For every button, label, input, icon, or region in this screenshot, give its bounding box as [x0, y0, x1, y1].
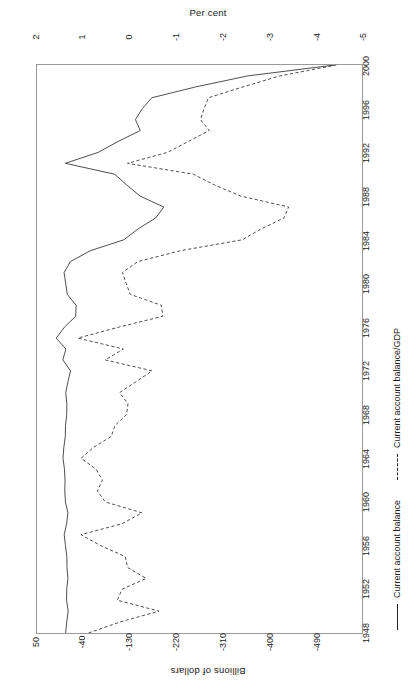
dashed-line-icon	[397, 454, 398, 480]
year-tick-1964: 1964	[361, 449, 371, 469]
top-tick-7: -5	[358, 33, 368, 41]
top-tick-1: 1	[77, 34, 87, 39]
legend-label: Current account balance	[392, 500, 402, 598]
top-tick-0: 2	[31, 34, 41, 39]
top-axis-ticks: 210-1-2-3-4-5	[0, 32, 416, 54]
year-tick-1980: 1980	[361, 274, 371, 294]
legend: Current account balanceCurrent account b…	[392, 300, 414, 630]
top-tick-5: -3	[265, 33, 275, 41]
year-tick-1988: 1988	[361, 187, 371, 207]
legend-item-0: Current account balance	[392, 500, 402, 630]
bottom-tick-4: -310	[218, 633, 228, 651]
bottom-tick-1: -40	[77, 635, 87, 648]
top-tick-3: -1	[171, 33, 181, 41]
series-current-account-balance	[56, 65, 335, 633]
year-tick-2000: 2000	[361, 56, 371, 76]
bottom-tick-6: -490	[312, 633, 322, 651]
top-tick-2: 0	[124, 34, 134, 39]
year-tick-1960: 1960	[361, 492, 371, 512]
year-tick-1992: 1992	[361, 143, 371, 163]
legend-item-1: Current account balance/GDP	[392, 328, 402, 480]
bottom-tick-5: -400	[265, 633, 275, 651]
year-tick-1952: 1952	[361, 579, 371, 599]
year-tick-1956: 1956	[361, 536, 371, 556]
solid-line-icon	[397, 604, 398, 630]
top-tick-4: -2	[218, 33, 228, 41]
legend-label: Current account balance/GDP	[392, 328, 402, 448]
year-tick-1996: 1996	[361, 100, 371, 120]
top-axis-title: Per cent	[0, 7, 416, 18]
chart-page: Per cent 210-1-2-3-4-5 19481952195619601…	[0, 0, 416, 689]
year-tick-1968: 1968	[361, 405, 371, 425]
year-tick-1976: 1976	[361, 318, 371, 338]
bottom-axis-title: Billions of dollars	[0, 666, 416, 677]
bottom-tick-0: 50	[31, 637, 41, 647]
year-tick-1972: 1972	[361, 361, 371, 381]
series-current-account-balance-gdp	[78, 65, 337, 633]
year-tick-1984: 1984	[361, 231, 371, 251]
top-tick-6: -4	[312, 33, 322, 41]
bottom-axis-ticks: 50-40-130-220-310-400-490	[0, 637, 416, 659]
plot-frame	[36, 64, 363, 634]
plot-area	[37, 65, 362, 633]
bottom-tick-2: -130	[124, 633, 134, 651]
bottom-tick-3: -220	[171, 633, 181, 651]
